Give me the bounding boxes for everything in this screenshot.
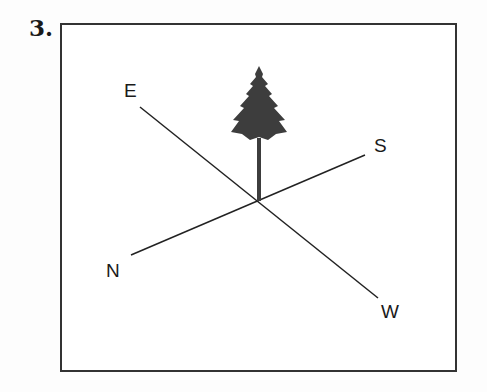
north-south-line <box>131 155 365 255</box>
direction-label-west: W <box>381 302 399 321</box>
pine-tree-icon <box>231 66 287 201</box>
compass-diagram <box>0 0 487 392</box>
direction-label-south: S <box>374 136 387 155</box>
direction-label-east: E <box>124 81 137 100</box>
direction-label-north: N <box>106 261 120 280</box>
